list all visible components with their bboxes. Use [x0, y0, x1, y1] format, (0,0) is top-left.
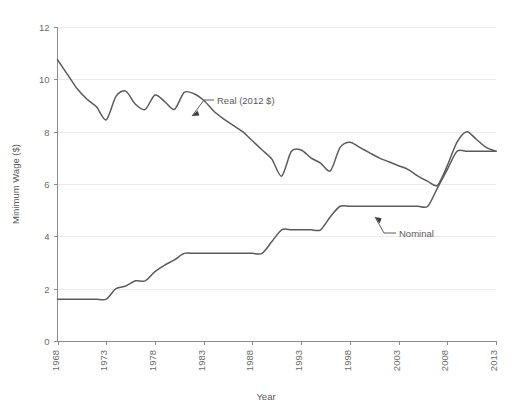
x-tick-label-1998: 1998 — [342, 350, 353, 371]
x-tick-label-1968: 1968 — [50, 350, 61, 371]
x-tick-label-2013: 2013 — [488, 350, 499, 371]
real-annotation-label: Real (2012 $) — [217, 95, 275, 106]
y-tick-label-6: 6 — [44, 179, 49, 190]
y-tick-label-12: 12 — [39, 22, 50, 33]
y-tick-label-0: 0 — [44, 336, 49, 347]
y-tick-label-2: 2 — [44, 284, 49, 295]
x-tick-label-1978: 1978 — [147, 350, 158, 371]
nominal-annotation-label: Nominal — [399, 228, 434, 239]
y-axis-title: Minimum Wage ($) — [10, 144, 21, 224]
x-tick-label-1993: 1993 — [293, 350, 304, 371]
chart-canvas: 024681012 196819731978198319881993199820… — [0, 0, 518, 413]
x-axis-title: Year — [256, 391, 275, 402]
x-tick-label-2003: 2003 — [391, 350, 402, 371]
x-tick-label-1983: 1983 — [196, 350, 207, 371]
y-tick-label-4: 4 — [44, 231, 49, 242]
x-tick-label-1988: 1988 — [244, 350, 255, 371]
minimum-wage-chart: 024681012 196819731978198319881993199820… — [0, 0, 518, 413]
y-tick-label-10: 10 — [39, 74, 50, 85]
x-tick-label-2008: 2008 — [439, 350, 450, 371]
x-tick-label-1973: 1973 — [98, 350, 109, 371]
y-tick-label-8: 8 — [44, 127, 49, 138]
